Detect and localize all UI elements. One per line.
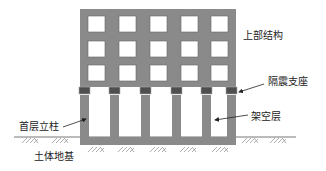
- label-isolation-bearing: 隔震支座: [268, 76, 308, 88]
- label-open-story: 架空层: [251, 111, 281, 123]
- bearing-leader-arrow: [239, 84, 264, 92]
- label-soil-foundation: 土体地基: [34, 151, 74, 163]
- first-story-columns: [80, 95, 236, 138]
- foundation-slab: [80, 137, 236, 145]
- label-superstructure: 上部结构: [243, 30, 283, 42]
- isolation-bearings: [79, 87, 237, 94]
- label-first-story-column: 首层立柱: [19, 121, 59, 133]
